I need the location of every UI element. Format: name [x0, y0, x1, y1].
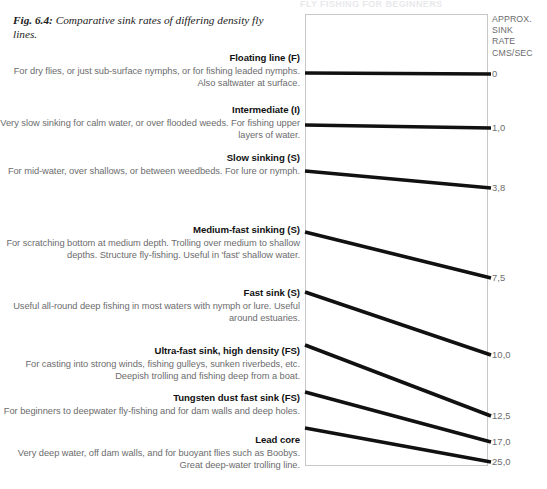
sink-rate-value: 0: [492, 68, 497, 79]
sink-rate-diagram: [305, 14, 488, 466]
sink-rate-lines: [304, 14, 494, 470]
line-type-title: Floating line (F): [0, 52, 300, 64]
sink-rate-value: 12,5: [492, 410, 511, 421]
line-type-title: Slow sinking (S): [0, 152, 300, 164]
line-type-title: Tungsten dust fast sink (FS): [0, 392, 300, 404]
sink-rate-value: 10,0: [492, 349, 511, 360]
figure-page: FLY FISHING FOR BEGINNERS Fig. 6.4: Comp…: [0, 0, 547, 489]
line-type-entry: Medium-fast sinking (S)For scratching bo…: [0, 224, 302, 261]
sink-rate-line: [305, 73, 491, 74]
line-type-description: For mid-water, over shallows, or between…: [0, 165, 300, 177]
description-column: Floating line (F)For dry flies, or just …: [0, 0, 302, 489]
line-type-description: For casting into strong winds, fishing g…: [0, 358, 300, 382]
line-type-entry: Lead coreVery deep water, off dam walls,…: [0, 434, 302, 471]
line-type-description: Very deep water, off dam walls, and for …: [0, 447, 300, 471]
line-type-entry: Ultra-fast sink, high density (FS)For ca…: [0, 345, 302, 382]
sink-rate-value: 7,5: [492, 272, 505, 283]
sink-rate-line: [305, 345, 491, 416]
sink-rate-column: APPROX. SINK RATE CMS/SEC 01,03,87,510,0…: [492, 14, 547, 466]
line-type-title: Fast sink (S): [0, 287, 300, 299]
line-type-title: Intermediate (I): [0, 104, 300, 116]
sink-rate-value: 25,0: [492, 456, 511, 467]
sink-rate-value: 1,0: [492, 122, 505, 133]
line-type-entry: Fast sink (S)Useful all-round deep fishi…: [0, 287, 302, 324]
sink-rate-value: 17,0: [492, 436, 511, 447]
line-type-entry: Tungsten dust fast sink (FS)For beginner…: [0, 392, 302, 417]
line-type-description: Useful all-round deep fishing in most wa…: [0, 300, 300, 324]
line-type-entry: Intermediate (I)Very slow sinking for ca…: [0, 104, 302, 141]
sink-rate-line: [305, 171, 491, 188]
line-type-description: For dry flies, or just sub-surface nymph…: [0, 65, 300, 89]
line-type-entry: Slow sinking (S)For mid-water, over shal…: [0, 152, 302, 177]
line-type-title: Lead core: [0, 434, 300, 446]
line-type-description: For beginners to deepwater fly-fishing a…: [0, 405, 300, 417]
sink-rate-heading: APPROX. SINK RATE CMS/SEC: [492, 14, 533, 59]
sink-rate-line: [305, 292, 491, 355]
line-type-description: For scratching bottom at medium depth. T…: [0, 237, 300, 261]
sink-rate-line: [305, 232, 491, 278]
running-header: FLY FISHING FOR BEGINNERS: [300, 0, 490, 7]
sink-rate-line: [305, 125, 491, 128]
line-type-description: Very slow sinking for calm water, or ove…: [0, 117, 300, 141]
sink-rate-value: 3,8: [492, 182, 505, 193]
line-type-entry: Floating line (F)For dry flies, or just …: [0, 52, 302, 89]
line-type-title: Ultra-fast sink, high density (FS): [0, 345, 300, 357]
line-type-title: Medium-fast sinking (S): [0, 224, 300, 236]
